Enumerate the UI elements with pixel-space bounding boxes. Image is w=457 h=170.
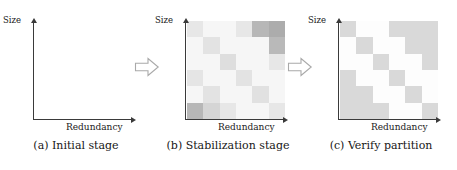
partition-cell — [405, 86, 421, 102]
partition-cell — [405, 103, 421, 119]
plot-area-a: Size Redundancy — [28, 18, 134, 122]
caption-a: (a) Initial stage — [0, 139, 152, 153]
heatmap-cell — [220, 54, 236, 70]
partition-cell — [373, 54, 389, 70]
heatmap-cell — [269, 54, 285, 70]
heatmap-cell — [187, 37, 203, 53]
x-axis-label-a: Redundancy — [66, 122, 123, 133]
caption-b: (b) Stabilization stage — [152, 139, 304, 153]
partition-cell — [340, 21, 356, 37]
plot-area-b: Size Redundancy — [180, 18, 286, 122]
partition-cell — [373, 37, 389, 53]
y-axis-label-c: Size — [308, 15, 326, 25]
partition-cell — [373, 103, 389, 119]
heatmap-cell — [187, 70, 203, 86]
heatmap-cell — [252, 86, 268, 102]
heatmap-cell — [220, 70, 236, 86]
heatmap-cell — [252, 103, 268, 119]
partition-cell — [389, 21, 405, 37]
partition-cell — [356, 54, 372, 70]
figure-container: Size Redundancy (a) Initial stage Size R… — [0, 0, 457, 170]
y-axis-arrowhead-icon-c — [336, 18, 342, 23]
heatmap-cell — [203, 37, 219, 53]
partition-cell — [356, 86, 372, 102]
heatmap-cell — [236, 54, 252, 70]
heatmap-cell — [187, 21, 203, 37]
x-axis-arrowhead-icon-b — [283, 117, 288, 123]
x-axis-line-b — [185, 119, 286, 120]
partition-cell — [405, 70, 421, 86]
heatmap-cell — [236, 103, 252, 119]
heatmap-cell — [203, 21, 219, 37]
heatmap-cell — [236, 37, 252, 53]
partition-cell — [373, 70, 389, 86]
partition-cell — [389, 37, 405, 53]
partition-cell — [389, 54, 405, 70]
y-axis-arrowhead-icon-b — [183, 18, 189, 23]
partition-cell — [356, 21, 372, 37]
panel-stabilization-stage: Size Redundancy (b) Stabilization stage — [152, 0, 304, 170]
heatmap-cell — [236, 86, 252, 102]
heatmap-cell — [220, 37, 236, 53]
partition-cell — [389, 103, 405, 119]
partition-cell — [422, 86, 438, 102]
heatmap-cell — [236, 21, 252, 37]
heatmap-cell — [203, 86, 219, 102]
heatmap-cell — [252, 21, 268, 37]
y-axis-line-b — [185, 20, 186, 120]
y-axis-label-a: Size — [3, 15, 21, 25]
partition-grid-c — [340, 21, 438, 119]
partition-cell — [389, 86, 405, 102]
partition-cell — [405, 37, 421, 53]
panel-verify-partition: Size Redundancy (c) Verify partition — [305, 0, 457, 170]
partition-cell — [373, 21, 389, 37]
caption-c: (c) Verify partition — [305, 139, 457, 153]
partition-cell — [340, 70, 356, 86]
partition-cell — [405, 21, 421, 37]
heatmap-cell — [269, 21, 285, 37]
plot-grid-a — [35, 21, 133, 119]
heatmap-cell — [252, 54, 268, 70]
heatmap-cell — [269, 37, 285, 53]
partition-cell — [340, 86, 356, 102]
heatmap-cell — [252, 70, 268, 86]
partition-cell — [356, 70, 372, 86]
partition-cell — [422, 54, 438, 70]
partition-cell — [422, 70, 438, 86]
heatmap-cell — [187, 86, 203, 102]
heatmap-cell — [187, 54, 203, 70]
y-axis-line-c — [338, 20, 339, 120]
partition-cell — [373, 86, 389, 102]
y-axis-label-b: Size — [155, 15, 173, 25]
heatmap-cell — [220, 103, 236, 119]
panel-initial-stage: Size Redundancy (a) Initial stage — [0, 0, 152, 170]
heatmap-cell — [220, 86, 236, 102]
partition-cell — [340, 37, 356, 53]
partition-cell — [356, 37, 372, 53]
heatmap-cell — [269, 70, 285, 86]
partition-cell — [405, 54, 421, 70]
y-axis-line-a — [33, 20, 34, 120]
x-axis-label-b: Redundancy — [218, 122, 275, 133]
x-axis-line-a — [33, 119, 134, 120]
partition-cell — [422, 37, 438, 53]
partition-cell — [340, 54, 356, 70]
heatmap-grid-b — [187, 21, 285, 119]
x-axis-label-c: Redundancy — [371, 122, 428, 133]
heatmap-cell — [203, 70, 219, 86]
heatmap-cell — [203, 103, 219, 119]
partition-cell — [389, 70, 405, 86]
x-axis-arrowhead-icon-c — [436, 117, 441, 123]
heatmap-cell — [203, 54, 219, 70]
partition-cell — [340, 103, 356, 119]
plot-area-c: Size Redundancy — [333, 18, 439, 122]
heatmap-cell — [220, 21, 236, 37]
heatmap-cell — [236, 70, 252, 86]
partition-cell — [356, 103, 372, 119]
heatmap-cell — [252, 37, 268, 53]
heatmap-cell — [269, 86, 285, 102]
heatmap-cell — [187, 103, 203, 119]
x-axis-line-c — [338, 119, 439, 120]
partition-cell — [422, 21, 438, 37]
